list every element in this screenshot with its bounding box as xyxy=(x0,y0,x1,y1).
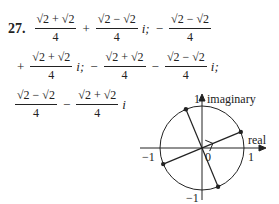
y-axis-label: imaginary xyxy=(207,92,256,106)
tick-y-neg1: −1 xyxy=(186,191,199,204)
tick-x-neg1: −1 xyxy=(142,150,155,164)
tick-y-1: 1 xyxy=(194,92,200,106)
tick-origin: 0 xyxy=(205,150,211,164)
complex-plane-diagram: imaginary real −1 0 1 1 −1 xyxy=(0,0,279,204)
tick-x-1: 1 xyxy=(248,150,254,164)
x-axis-label: real xyxy=(248,133,267,147)
